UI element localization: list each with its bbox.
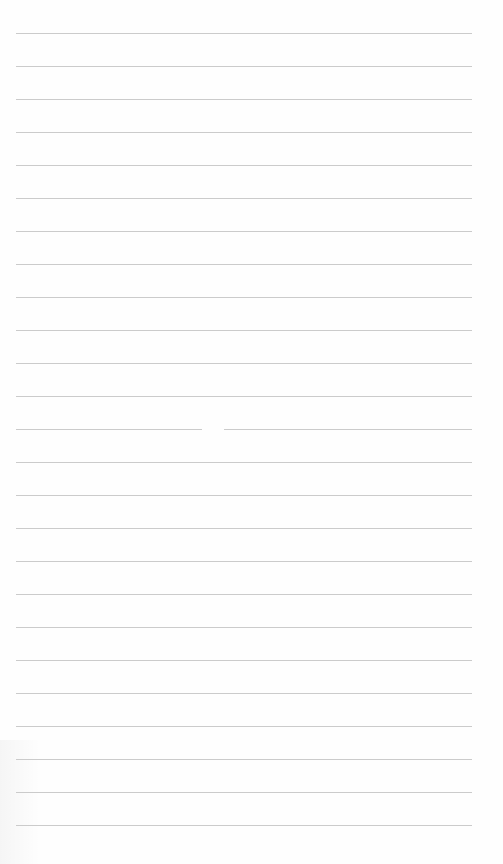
ruled-line (16, 99, 472, 100)
ruled-line (16, 825, 472, 826)
ruled-line (16, 165, 472, 166)
lined-paper-page (0, 0, 503, 864)
ruled-line (16, 462, 472, 463)
ruled-line (16, 330, 472, 331)
ruled-line (16, 561, 472, 562)
ruled-line (16, 594, 472, 595)
ruled-line (16, 759, 472, 760)
ruled-line (16, 33, 472, 34)
ruled-line (16, 495, 472, 496)
ruled-line-segment (224, 429, 472, 430)
ruled-line (16, 396, 472, 397)
ruled-line (16, 231, 472, 232)
ruled-line (16, 363, 472, 364)
ruled-line (16, 660, 472, 661)
ruled-line (16, 198, 472, 199)
ruled-line (16, 726, 472, 727)
ruled-line-segment (16, 429, 202, 430)
ruled-line (16, 132, 472, 133)
ruled-line (16, 264, 472, 265)
ruled-line (16, 627, 472, 628)
ruled-line (16, 792, 472, 793)
ruled-line (16, 528, 472, 529)
ruled-line (16, 66, 472, 67)
ruled-line (16, 297, 472, 298)
ruled-line (16, 693, 472, 694)
